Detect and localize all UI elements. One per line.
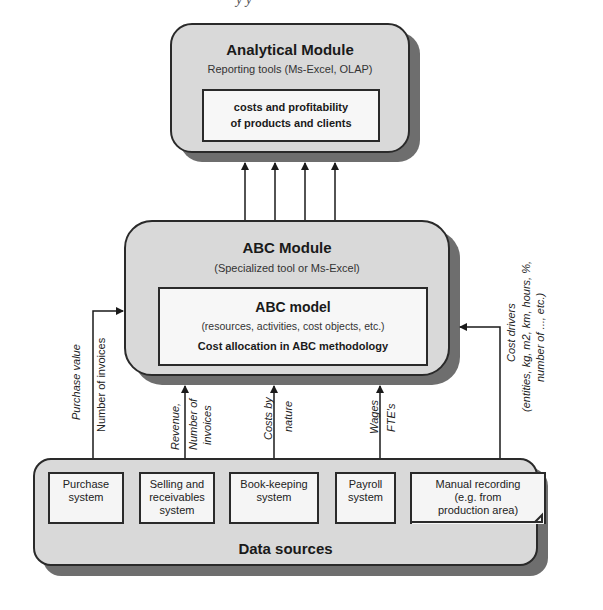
cost-drivers-label: Cost drivers xyxy=(505,303,517,362)
arrow-left-icon xyxy=(460,327,500,458)
revenue-label: Revenue, xyxy=(169,403,181,450)
wages-label: Wages xyxy=(368,400,380,434)
number-of-label: Number of xyxy=(187,399,199,450)
costs-by-label: Costs by xyxy=(262,397,274,440)
nature-label: nature xyxy=(282,401,294,432)
invoices-label: invoices xyxy=(201,405,213,445)
cost-drivers-units-label: (entities, kg, m2, km, hours, %, xyxy=(520,261,532,412)
cost-drivers-number-label: number of ..., etc.) xyxy=(534,293,546,382)
ftes-label: FTE's xyxy=(385,404,397,432)
purchase-value-label: Purchase value xyxy=(70,344,82,420)
number-of-invoices-label: Number of invoices xyxy=(95,338,107,432)
document-fold-icon xyxy=(410,515,542,522)
